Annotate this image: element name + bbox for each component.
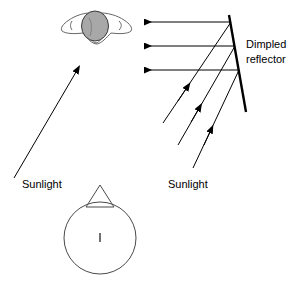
person-top-view	[61, 11, 131, 44]
reflected-rays-group	[144, 22, 239, 70]
incident-ray-3-head	[204, 132, 210, 145]
incident-ray-2	[178, 46, 235, 145]
incident-rays-group	[163, 22, 239, 168]
sunlight-label-right: Sunlight	[168, 178, 208, 190]
body-figure	[64, 185, 136, 274]
dimpled-reflector-label-line2: reflector	[246, 53, 286, 65]
incident-ray-1-head	[178, 89, 186, 101]
dimpled-reflector-label-line1: Dimpled	[246, 38, 286, 50]
incident-ray-2-head	[191, 110, 198, 122]
incident-ray-3	[193, 70, 239, 168]
sunlight-ray-left	[14, 72, 76, 178]
person-head	[82, 11, 109, 41]
sunlight-label-left: Sunlight	[22, 178, 62, 190]
diagram-canvas: Dimpled reflector Sunlight Sunlight	[0, 0, 297, 293]
sunlight-reflector-diagram: Dimpled reflector Sunlight Sunlight	[0, 0, 297, 293]
dimpled-reflector	[229, 15, 246, 112]
